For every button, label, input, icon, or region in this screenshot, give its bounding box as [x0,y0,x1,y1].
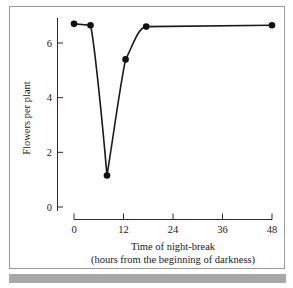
y-axis-tick-labels: 0246 [47,38,53,213]
x-tick-label: 48 [267,224,278,235]
y-tick-label: 4 [47,92,53,103]
y-tick-label: 0 [47,202,52,213]
line-chart: 0246 012243648 Flowers per plant Time of… [0,0,293,288]
y-axis-ticks [58,43,64,207]
figure-root: 0246 012243648 Flowers per plant Time of… [0,0,293,288]
data-point [104,172,111,179]
y-tick-label: 6 [47,38,52,49]
data-point [269,22,276,29]
y-tick-label: 2 [47,147,52,158]
data-point [122,56,129,63]
x-axis-title: Time of night-break [131,241,216,252]
data-point [143,23,150,30]
x-tick-label: 36 [217,224,228,235]
x-tick-label: 12 [118,224,129,235]
x-tick-label: 24 [168,224,179,235]
data-series-points [71,21,276,179]
x-axis-tick-labels: 012243648 [71,224,277,235]
x-axis-ticks [74,214,272,220]
x-tick-label: 0 [71,224,76,235]
x-axis-title-subtext: (hours from the beginning of darkness) [91,254,256,266]
data-point [71,21,78,28]
data-point [87,22,94,29]
data-series-line [74,24,272,176]
y-axis-title: Flowers per plant [21,81,32,155]
